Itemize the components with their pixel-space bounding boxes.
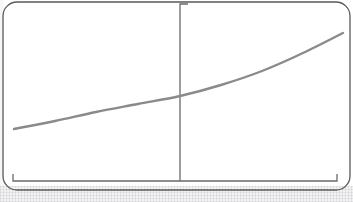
chart-canvas bbox=[0, 0, 353, 202]
x-axis-bracket bbox=[13, 174, 337, 181]
growth-curve-line bbox=[14, 33, 343, 129]
figure-root bbox=[0, 0, 353, 202]
y-axis-divider bbox=[180, 4, 188, 181]
